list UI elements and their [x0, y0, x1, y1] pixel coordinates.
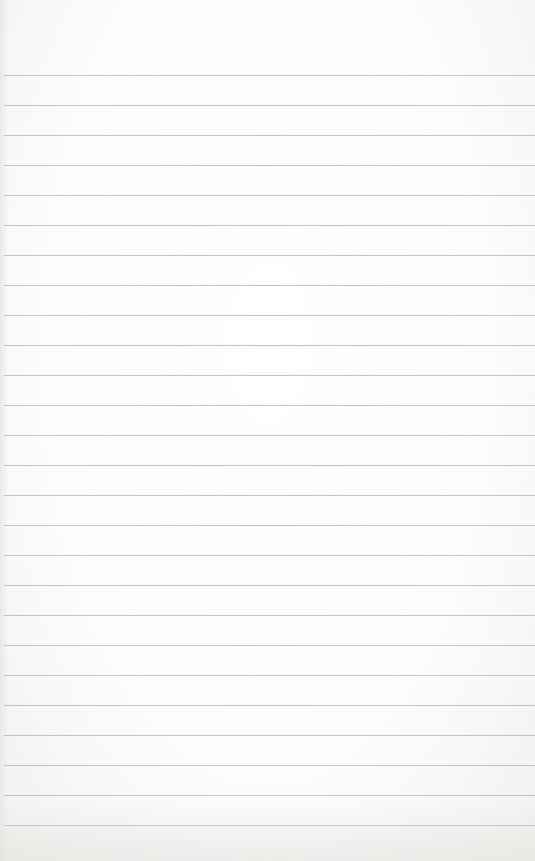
ruled-line — [4, 735, 535, 736]
ruled-line — [4, 765, 535, 766]
lined-paper — [0, 0, 535, 861]
ruled-line — [4, 255, 535, 256]
ruled-line — [4, 675, 535, 676]
ruled-line — [4, 405, 535, 406]
ruled-line — [4, 195, 535, 196]
ruled-line — [4, 225, 535, 226]
ruled-line — [4, 495, 535, 496]
ruled-line — [4, 585, 535, 586]
ruled-line — [4, 465, 535, 466]
ruled-line — [4, 375, 535, 376]
ruled-line — [4, 795, 535, 796]
ruled-line — [4, 105, 535, 106]
ruled-line — [4, 165, 535, 166]
ruled-line — [4, 435, 535, 436]
ruled-line — [4, 135, 535, 136]
ruled-line — [4, 825, 535, 826]
ruled-line — [4, 315, 535, 316]
ruled-line — [4, 615, 535, 616]
ruled-line — [4, 555, 535, 556]
ruled-line — [4, 525, 535, 526]
ruled-line — [4, 705, 535, 706]
ruled-line — [4, 75, 535, 76]
ruled-line — [4, 285, 535, 286]
ruled-line — [4, 645, 535, 646]
ruled-line — [4, 345, 535, 346]
